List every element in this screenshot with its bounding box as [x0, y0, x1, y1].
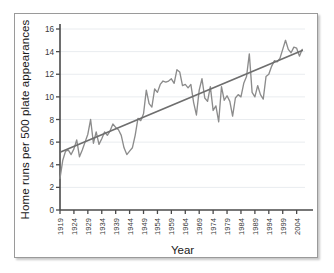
x-axis-tick-label: 1919	[56, 218, 65, 235]
chart-figure: 0246810121416191919241929193419391944194…	[14, 13, 318, 258]
x-axis-tick-label: 1989	[251, 218, 260, 235]
y-axis-tick-label: 0	[49, 206, 54, 215]
x-axis-tick-label: 1949	[140, 218, 149, 235]
y-axis-tick-label: 8	[49, 116, 54, 125]
x-axis-tick-label: 1959	[167, 218, 176, 235]
x-axis-tick-label: 1954	[153, 218, 162, 235]
y-axis-tick-label: 12	[45, 70, 55, 79]
line-chart: 0246810121416191919241929193419391944194…	[15, 14, 317, 257]
x-axis-tick-label: 1934	[98, 218, 107, 235]
x-axis-tick-label: 1999	[279, 218, 288, 235]
x-axis-tick-label: 1964	[181, 218, 190, 235]
x-axis-tick-label: 1929	[84, 218, 93, 235]
x-axis-tick-label: 1969	[195, 218, 204, 235]
x-axis-tick-label: 1979	[223, 218, 232, 235]
y-axis-tick-label: 10	[45, 93, 55, 102]
x-axis-title: Year	[171, 244, 194, 256]
x-axis-tick-label: 1984	[237, 218, 246, 235]
x-axis-tick-label: 1974	[209, 218, 218, 235]
y-axis-tick-label: 6	[49, 138, 54, 147]
x-axis-tick-label: 1994	[265, 218, 274, 235]
y-axis-title: Home runs per 500 plate appearances	[19, 19, 31, 219]
x-axis-tick-label: 1944	[126, 218, 135, 235]
y-axis-tick-label: 14	[45, 48, 55, 57]
x-axis-tick-label: 1939	[112, 218, 121, 235]
y-axis-tick-label: 16	[45, 25, 55, 34]
y-axis-tick-label: 2	[49, 183, 54, 192]
x-axis-tick-label: 2004	[293, 218, 302, 235]
x-axis-tick-label: 1924	[70, 218, 79, 235]
y-axis-tick-label: 4	[49, 161, 54, 170]
